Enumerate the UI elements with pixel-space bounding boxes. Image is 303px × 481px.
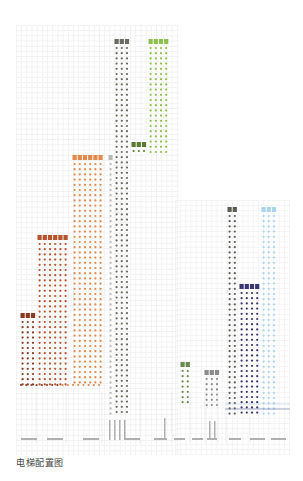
elevator-diagram [0, 0, 303, 481]
diagram-title: 电梯配置图 [16, 456, 64, 469]
elevator-group-navy [240, 284, 260, 414]
elevator-group-dark-green [132, 142, 147, 152]
elevator-group-mid [73, 155, 103, 384]
elevator-group-tower-grey [228, 207, 237, 415]
elevator-group-small-green [181, 362, 190, 403]
elevator-group-grey-column [109, 155, 113, 415]
elevator-group-service [205, 370, 220, 406]
elevator-group-high-green [149, 39, 169, 153]
elevator-group-light-blue [262, 207, 277, 415]
elevator-group-shuttle [115, 39, 130, 413]
elevator-group-low-1 [21, 313, 36, 386]
elevator-group-low-2 [38, 235, 68, 386]
